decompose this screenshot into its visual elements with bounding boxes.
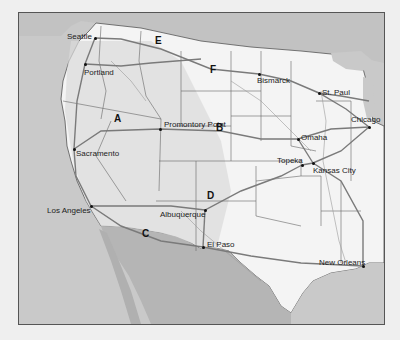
city-marker-icon [312, 162, 315, 165]
route-label: E [155, 36, 162, 46]
route-label: D [207, 191, 214, 201]
city-label: St. Paul [322, 89, 350, 97]
route-label: B [216, 123, 223, 133]
city-label: Seattle [67, 33, 92, 41]
city-marker-icon [202, 246, 205, 249]
city-marker-icon [318, 92, 321, 95]
city-marker-icon [368, 126, 371, 129]
city-marker-icon [94, 37, 97, 40]
route-label: F [210, 65, 216, 75]
city-label: Sacramento [76, 150, 119, 158]
city-marker-icon [84, 63, 87, 66]
city-label: Bismarck [257, 77, 290, 85]
city-label: Topeka [277, 157, 303, 165]
route-label: C [142, 229, 149, 239]
city-label: Chicago [351, 116, 380, 124]
city-label: New Orleans [319, 259, 365, 267]
city-label: Los Angeles [47, 207, 91, 215]
city-label: El Paso [207, 241, 235, 249]
city-label: Portland [84, 69, 114, 77]
map-frame: SeattlePortlandSacramentoLos AngelesProm… [18, 12, 385, 325]
city-label: Omaha [301, 134, 327, 142]
city-label: Albuquerque [160, 211, 205, 219]
route-label: A [114, 114, 121, 124]
city-label: Kansas City [313, 167, 356, 175]
city-marker-icon [297, 138, 300, 141]
city-marker-icon [159, 128, 162, 131]
